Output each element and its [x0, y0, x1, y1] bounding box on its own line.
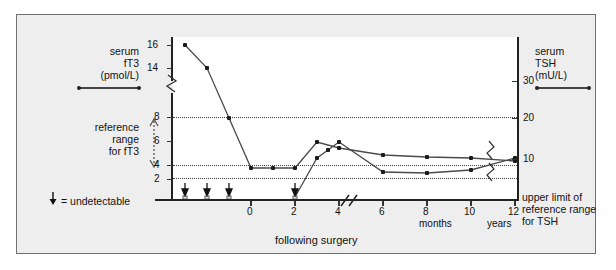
x-axis-tick-label: 10 — [464, 207, 475, 217]
undetectable-label: = undetectable — [61, 195, 130, 207]
figure-panel: serum fT3 (pmol/L) serum TSH (mU/L) refe… — [16, 14, 596, 254]
left-axis-title-line3: (pmol/L) — [75, 69, 139, 81]
axis-tick — [167, 45, 172, 47]
x-axis-tick-label: 6 — [379, 207, 385, 217]
down-arrow-icon — [47, 191, 59, 207]
legend-tsh-dot-left — [535, 86, 539, 90]
legend-ft3-line — [79, 87, 139, 89]
reference-range-line3: for fT3 — [59, 145, 139, 157]
series-break-marks — [485, 137, 515, 197]
left-axis-title-line2: fT3 — [75, 57, 139, 69]
right-axis-tick-label: 20 — [523, 113, 534, 123]
undetectable-arrows — [173, 37, 517, 199]
left-axis-tick-label: 8 — [154, 112, 160, 122]
axis-tick — [167, 179, 172, 181]
tsh-limit-line3: for TSH — [522, 215, 600, 227]
right-axis-title-line2: TSH — [535, 57, 599, 69]
axis-tick — [512, 81, 517, 83]
left-axis-tick-label: 4 — [154, 160, 160, 170]
left-axis-break-icon — [165, 73, 181, 95]
left-axis-tick-label: 6 — [154, 136, 160, 146]
legend-tsh-line — [537, 87, 589, 89]
x-axis-tick-label: 12 — [508, 207, 519, 217]
reference-range-line2: range — [59, 133, 139, 145]
plot-area — [173, 37, 517, 199]
x-axis-tick-label: 2 — [291, 207, 297, 217]
left-axis-tick-label: 16 — [147, 40, 158, 50]
x-axis-years-label: years — [487, 219, 511, 229]
x-axis-tick-label: 0 — [247, 207, 253, 217]
right-axis-title-line3: (mU/L) — [535, 69, 599, 81]
left-axis-tick-label: 2 — [154, 174, 160, 184]
axis-tick — [167, 141, 172, 143]
axis-tick — [512, 159, 517, 161]
left-axis-tick-label: 14 — [147, 63, 158, 73]
axis-tick — [167, 68, 172, 70]
tsh-limit-label: upper limit of reference range for TSH — [522, 191, 600, 227]
right-axis-tick-label: 30 — [523, 76, 534, 86]
left-axis-lower-segment — [171, 93, 173, 199]
x-axis-tick-label: 8 — [423, 207, 429, 217]
right-axis-line — [517, 37, 519, 199]
tsh-limit-line1: upper limit of — [522, 191, 600, 203]
left-axis-title-line1: serum — [75, 45, 139, 57]
right-axis-title-line1: serum — [535, 45, 599, 57]
x-axis-break-icon — [337, 193, 363, 209]
axis-tick — [167, 165, 172, 167]
right-axis-tick-label: 10 — [523, 154, 534, 164]
axis-tick — [512, 118, 517, 120]
tsh-limit-line2: reference range — [522, 203, 600, 215]
reference-range-label: reference range for fT3 — [59, 121, 139, 157]
legend-ft3-dot-right — [137, 86, 141, 90]
right-axis-title: serum TSH (mU/L) — [535, 45, 599, 81]
x-axis-months-label: months — [419, 219, 452, 229]
figure-caption: following surgery — [275, 235, 358, 245]
reference-range-line1: reference — [59, 121, 139, 133]
left-axis-title: serum fT3 (pmol/L) — [75, 45, 139, 81]
axis-tick — [167, 117, 172, 119]
legend-ft3-dot-left — [77, 86, 81, 90]
legend-tsh-dot-right — [587, 86, 591, 90]
